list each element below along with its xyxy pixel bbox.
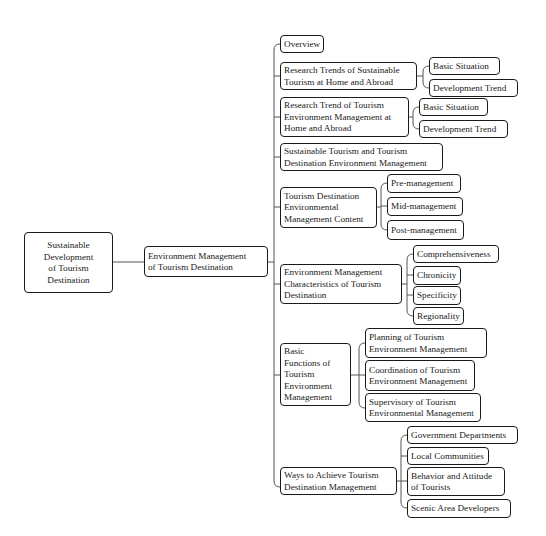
leaf-regionality: Regionality (413, 307, 464, 325)
leaf-development-trend-1: Development Trend (429, 79, 518, 97)
leaf-government-departments: Government Departments (407, 426, 518, 444)
branch-env-mgmt-content: Tourism Destination Environmental Manage… (280, 187, 377, 228)
leaf-supervisory: Supervisory of Tourism Environmental Man… (365, 393, 481, 422)
leaf-comprehensiveness: Comprehensiveness (413, 245, 499, 263)
level1-node: Environment Management of Tourism Destin… (144, 246, 268, 277)
leaf-specificity: Specificity (413, 286, 461, 305)
leaf-basic-situation-2: Basic Situation (419, 98, 488, 116)
branch-basic-functions: Basic Functions of Tourism Environment M… (280, 343, 351, 406)
branch-research-trends-sustainable: Research Trends of Sustainable Tourism a… (280, 62, 417, 90)
leaf-local-communities: Local Communities (407, 447, 489, 465)
branch-overview: Overview (280, 35, 324, 53)
leaf-mid-management: Mid-management (387, 197, 463, 216)
leaf-planning: Planning of Tourism Environment Manageme… (365, 328, 487, 358)
root-node: Sustainable Development of Tourism Desti… (24, 232, 113, 293)
leaf-behavior-attitude-tourists: Behavior and Attitude of Tourists (407, 467, 505, 496)
leaf-development-trend-2: Development Trend (419, 120, 508, 138)
branch-ways-to-achieve: Ways to Achieve Tourism Destination Mana… (280, 467, 397, 495)
branch-research-trend-env-mgmt: Research Trend of Tourism Environment Ma… (280, 97, 409, 137)
leaf-post-management: Post-management (387, 220, 464, 240)
leaf-chronicity: Chronicity (413, 266, 461, 285)
branch-sustainable-tourism-env-mgmt: Sustainable Tourism and Tourism Destinat… (280, 143, 443, 171)
leaf-basic-situation-1: Basic Situation (429, 57, 500, 75)
leaf-coordination: Coordination of Tourism Environment Mana… (365, 360, 475, 391)
leaf-pre-management: Pre-management (387, 174, 461, 193)
leaf-scenic-area-developers: Scenic Area Developers (407, 499, 511, 518)
branch-env-mgmt-characteristics: Environment Management Characteristics o… (280, 264, 402, 304)
